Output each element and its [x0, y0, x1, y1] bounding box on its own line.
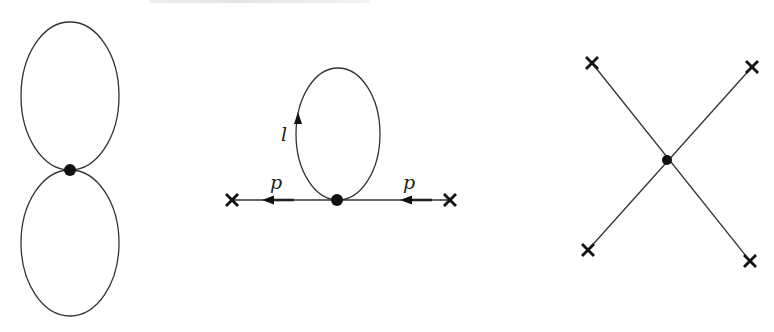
loop-momentum-arrow-icon — [294, 112, 302, 124]
tadpole-loop — [296, 68, 380, 200]
top-left-cross-icon — [586, 57, 598, 69]
figure-eight-diagram — [21, 22, 119, 316]
left-momentum-label: p — [270, 171, 282, 193]
vertex-dot — [64, 164, 76, 176]
vertex-dot — [662, 155, 672, 165]
four-point-diagram — [582, 57, 758, 267]
vertex-dot — [331, 194, 343, 206]
top-right-cross-icon — [746, 61, 758, 73]
lower-loop — [21, 170, 119, 316]
right-momentum-label: p — [403, 171, 415, 193]
right-momentum-arrow-icon — [400, 196, 412, 205]
bottom-left-cross-icon — [582, 244, 594, 256]
feynman-diagrams-canvas: l p p — [0, 0, 774, 332]
left-momentum-arrow-icon — [262, 196, 274, 205]
upper-loop — [21, 22, 119, 170]
loop-momentum-label: l — [281, 123, 287, 145]
bottom-right-cross-icon — [744, 255, 756, 267]
tadpole-diagram: l p p — [226, 68, 456, 206]
